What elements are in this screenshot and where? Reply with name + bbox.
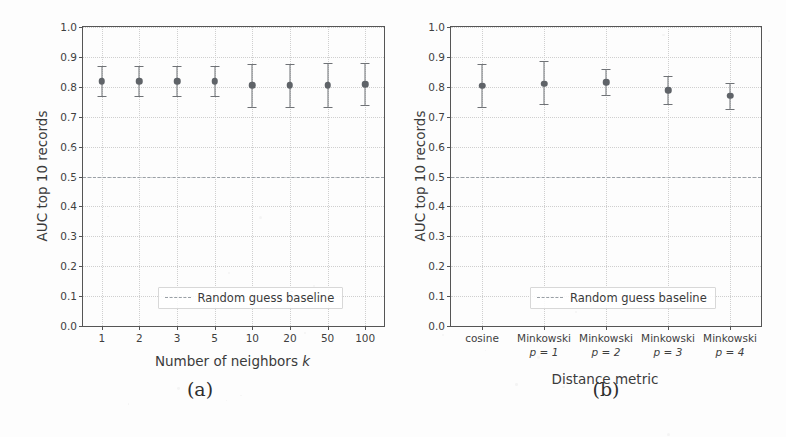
figure-root: AUC top 10 records 0.00.10.20.30.40.50.6… [0, 0, 786, 437]
data-point-marker [249, 82, 256, 89]
x-axis-tick-mark [252, 326, 253, 330]
x-axis-tick-label-primary: Minkowski [703, 332, 757, 344]
error-bar-cap [540, 104, 549, 105]
x-axis-tick-label: 100 [355, 332, 375, 344]
error-bar-cap [361, 63, 370, 64]
error-bar-cap [478, 64, 487, 65]
data-point-marker [665, 87, 672, 94]
y-axis-tick-mark [447, 177, 451, 178]
y-axis-tick-mark [447, 57, 451, 58]
x-axis-tick-label-primary: 1 [98, 332, 105, 344]
data-point-marker [324, 82, 331, 89]
legend-label-b: Random guess baseline [570, 291, 707, 305]
x-axis-tick-label-primary: 100 [355, 332, 375, 344]
x-axis-tick-label: 50 [321, 332, 334, 344]
scan-artifact [442, 334, 444, 336]
x-axis-tick-label: Minkowskip = 4 [703, 332, 757, 358]
gridline-horizontal [83, 27, 384, 28]
y-axis-tick-mark [447, 117, 451, 118]
x-axis-tick-mark [290, 326, 291, 330]
x-axis-tick-mark [606, 326, 607, 330]
error-bar-cap [323, 107, 332, 108]
gridline-horizontal [83, 206, 384, 207]
y-axis-tick-mark [79, 117, 83, 118]
y-axis-tick-mark [79, 206, 83, 207]
error-bar-cap [285, 107, 294, 108]
x-axis-tick-mark [365, 326, 366, 330]
x-axis-tick-label-primary: cosine [465, 332, 499, 344]
y-axis-tick-mark [79, 147, 83, 148]
error-bar-cap [361, 105, 370, 106]
scan-artifact [313, 285, 315, 287]
error-bar-cap [285, 64, 294, 65]
x-axis-tick-label-primary: Minkowski [579, 332, 633, 344]
data-point-marker [603, 79, 610, 86]
error-bar-cap [210, 96, 219, 97]
data-point-marker [362, 81, 369, 88]
x-axis-tick-label-primary: 3 [174, 332, 181, 344]
y-axis-tick-mark [447, 326, 451, 327]
x-axis-tick-label-primary: Minkowski [517, 332, 571, 344]
y-axis-label-b: AUC top 10 records [412, 110, 428, 241]
error-bar-cap [173, 66, 182, 67]
x-axis-label-a-main: Number of neighbors [155, 353, 298, 369]
subplot-b: AUC top 10 records 0.00.10.20.30.40.50.6… [400, 0, 786, 437]
gridline-horizontal [83, 236, 384, 237]
error-bar-cap [173, 96, 182, 97]
y-axis-tick-mark [447, 27, 451, 28]
x-axis-tick-label: 1 [98, 332, 105, 344]
x-axis-tick-label: Minkowskip = 2 [579, 332, 633, 358]
x-axis-tick-mark [139, 326, 140, 330]
y-axis-tick-mark [447, 296, 451, 297]
data-point-marker [174, 78, 181, 85]
random-guess-baseline-b [451, 177, 761, 178]
error-bar-cap [664, 104, 673, 105]
x-axis-label-a-var: k [302, 353, 310, 369]
x-axis-tick-mark [328, 326, 329, 330]
x-axis-label-a: Number of neighbors k [82, 353, 383, 369]
error-bar-cap [323, 63, 332, 64]
plot-area-b: 0.00.10.20.30.40.50.60.70.80.91.0 cosine… [450, 26, 762, 327]
y-axis-tick-mark [79, 326, 83, 327]
subplot-caption-b: (b) [593, 378, 620, 400]
data-point-marker [727, 93, 734, 100]
y-axis-tick-mark [447, 266, 451, 267]
x-axis-tick-mark [730, 326, 731, 330]
legend-b: Random guess baseline [530, 287, 716, 309]
x-axis-tick-label: 3 [174, 332, 181, 344]
x-axis-tick-mark [482, 326, 483, 330]
scan-artifact [515, 383, 517, 385]
y-axis-tick-mark [79, 87, 83, 88]
x-axis-tick-label-primary: 10 [246, 332, 259, 344]
y-axis-label-a: AUC top 10 records [34, 110, 50, 241]
data-point-marker [287, 82, 294, 89]
x-axis-tick-label-secondary: p = 1 [517, 346, 571, 358]
x-axis-tick-label-primary: 20 [283, 332, 296, 344]
scan-artifact [667, 433, 670, 436]
random-guess-baseline-a [83, 177, 384, 178]
x-axis-tick-label: 2 [136, 332, 143, 344]
x-axis-tick-label: 20 [283, 332, 296, 344]
data-point-marker [211, 78, 218, 85]
x-axis-tick-label-secondary: p = 4 [703, 346, 757, 358]
legend-a: Random guess baseline [158, 287, 344, 309]
gridline-horizontal [83, 147, 384, 148]
y-axis-tick-mark [79, 236, 83, 237]
data-point-marker [541, 80, 548, 87]
legend-dashed-line-icon [537, 297, 563, 298]
scan-artifact [562, 386, 565, 389]
x-axis-tick-mark [102, 326, 103, 330]
y-axis-tick-mark [447, 236, 451, 237]
x-axis-tick-label: Minkowskip = 1 [517, 332, 571, 358]
y-axis-tick-mark [79, 177, 83, 178]
x-axis-tick-mark [544, 326, 545, 330]
data-point-marker [479, 83, 486, 90]
y-axis-tick-mark [79, 27, 83, 28]
x-axis-tick-label: 5 [211, 332, 218, 344]
error-bar-cap [664, 76, 673, 77]
scan-artifact [259, 216, 262, 219]
gridline-horizontal [83, 266, 384, 267]
x-axis-tick-mark [177, 326, 178, 330]
gridline-horizontal [83, 87, 384, 88]
scan-artifact [575, 311, 577, 313]
